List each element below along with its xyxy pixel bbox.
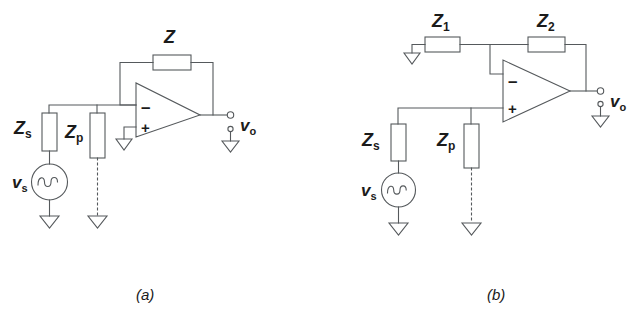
b-inverting-feedback-wire [490,45,503,75]
b-ground-z1 [404,53,420,64]
a-impedance-z-label: Z [164,28,175,46]
b-impedance-zp-label-text: Z [437,130,448,150]
b-impedance-zs-box [391,124,406,161]
a-impedance-zp-label-text: Z [65,122,76,142]
a-impedance-zs-label-text: Z [14,118,25,138]
a-source-label-sub: s [21,182,27,194]
a-source-label: vs [12,174,28,191]
b-impedance-zp-box [464,124,479,168]
a-source-sine-wave [38,178,58,187]
a-output-label-sub: o [249,125,256,137]
caption-a: (a) [136,287,154,302]
b-impedance-z1-label: Z1 [432,12,450,30]
a-impedance-zs-label: Zs [14,119,32,137]
caption-b: (b) [487,287,505,302]
figure-canvas: Z Zs Zp vs vo – + (a) Z1 Z2 Zs Zp vs vo … [0,0,633,316]
a-impedance-zp-label-sub: p [76,131,83,145]
a-ground-opamp [116,139,132,150]
b-ground-output [592,116,609,127]
a-output-ref-terminal-dot [228,126,233,131]
a-impedance-zp-box [90,113,105,158]
b-impedance-zs-label-sub: s [373,139,380,153]
b-source-sine-wave [388,186,407,194]
b-output-terminal-dot [597,88,603,94]
a-ground-output [222,141,239,152]
a-ground-source [40,216,59,228]
b-impedance-z1-label-text: Z [432,11,443,31]
a-opamp-noninverting-sign: + [141,120,150,135]
schematic-svg [0,0,633,316]
b-source-circle [382,173,416,207]
b-impedance-zs-label: Zs [362,131,380,149]
a-inverting-input-wire [49,105,136,113]
b-ground-zp [462,223,481,235]
b-z1-left-wire [412,45,425,54]
a-output-label: vo [240,117,256,134]
b-z2-right-wire [565,45,586,92]
a-opamp-inverting-sign: – [141,99,150,116]
b-opamp-noninverting-sign: + [508,101,517,116]
b-impedance-z2-label-sub: 2 [548,20,555,34]
a-ground-zp [88,216,107,228]
b-output-label-sub: o [619,101,626,113]
b-source-label: vs [361,182,377,199]
b-output-label: vo [610,93,626,110]
b-impedance-z2-label-text: Z [537,11,548,31]
b-impedance-z2-box [528,37,565,52]
a-noninverting-input-wire [124,127,136,139]
b-impedance-z1-label-sub: 1 [443,20,450,34]
a-output-terminal-dot [227,112,233,118]
b-output-ref-terminal-dot [598,101,603,106]
a-impedance-z-label-text: Z [164,27,175,47]
a-impedance-z-box [153,55,191,70]
b-source-label-sub: s [370,190,376,202]
a-impedance-zs-box [42,113,57,151]
a-impedance-zs-label-sub: s [25,127,32,141]
b-impedance-zs-label-text: Z [362,130,373,150]
b-impedance-z1-box [425,37,460,52]
a-source-circle [32,164,68,200]
b-opamp-inverting-sign: – [508,73,517,90]
a-impedance-zp-label: Zp [65,123,83,141]
b-noninverting-input-wire [398,108,503,124]
b-ground-source [389,223,408,235]
a-feedback-right-wire [191,63,213,116]
b-impedance-z2-label: Z2 [537,12,555,30]
b-impedance-zp-label: Zp [437,131,455,149]
b-impedance-zp-label-sub: p [448,139,455,153]
